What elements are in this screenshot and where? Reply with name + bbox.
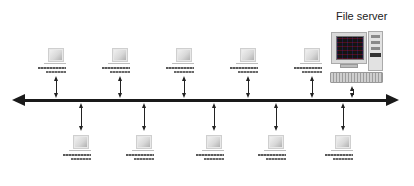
drive-bay [371,41,380,44]
monitor-base [300,63,322,64]
monitor-icon [176,48,192,62]
workstation-label-line [174,71,194,73]
workstation-label-line [266,158,286,160]
monitor-base [236,63,258,64]
backbone-arrowhead-right-icon [386,94,399,106]
workstation-label-line [258,154,286,156]
arrow-down-icon [118,93,122,98]
workstation-label-line [166,67,194,69]
workstation-label-line [204,158,224,160]
server-tower-icon [368,31,383,71]
workstation-label-line [196,154,224,156]
monitor-base [108,63,130,64]
arrow-down-icon [182,93,186,98]
workstation-label-line [102,67,130,69]
monitor-icon [335,135,351,149]
monitor-base [69,150,91,151]
file-server-label: File server [336,10,387,22]
workstation-label-line [46,71,66,73]
monitor-base [331,150,353,151]
workstation-label-line [294,67,322,69]
monitor-icon [112,48,128,62]
monitor-base [264,150,286,151]
workstation-label-line [325,154,353,156]
arrow-down-icon [310,93,314,98]
server-keyboard-icon [330,72,383,83]
workstation-label-line [110,71,130,73]
network-backbone [22,99,388,102]
server-screen [336,36,364,60]
workstation-label-line [63,154,91,156]
drive-bay [371,47,380,50]
arrow-down-icon [142,126,146,131]
server-monitor-icon [331,32,367,64]
arrow-down-icon [79,126,83,131]
workstation-label-line [230,67,258,69]
arrow-down-icon [246,93,250,98]
workstation-label-line [71,158,91,160]
workstation-label-line [126,154,154,156]
workstation-label-line [333,158,353,160]
drive-bay [370,53,381,57]
workstation-label-line [134,158,154,160]
monitor-base [44,63,66,64]
monitor-icon [268,135,284,149]
drive-bay [371,35,380,38]
workstation-label-line [38,67,66,69]
monitor-base [172,63,194,64]
workstation-label-line [238,71,258,73]
arrow-down-icon [350,93,354,98]
server-monitor-stand [340,64,358,68]
monitor-icon [240,48,256,62]
monitor-icon [206,135,222,149]
arrow-down-icon [341,126,345,131]
monitor-base [132,150,154,151]
arrow-down-icon [54,93,58,98]
arrow-down-icon [274,126,278,131]
workstation-label-line [302,71,322,73]
monitor-icon [73,135,89,149]
monitor-icon [48,48,64,62]
monitor-icon [304,48,320,62]
monitor-icon [136,135,152,149]
monitor-base [202,150,224,151]
arrow-down-icon [212,126,216,131]
